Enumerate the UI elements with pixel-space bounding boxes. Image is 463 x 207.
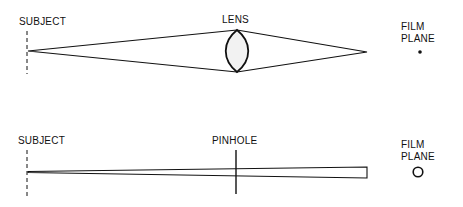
optics-diagram-canvas [0,0,463,207]
film-point-icon [418,50,422,54]
film-blur-circle-icon [413,167,423,177]
lens-outgoing-rays [237,30,367,72]
lens-incoming-rays [28,30,237,72]
pinhole-ray-cone [28,167,367,178]
lens-icon [226,30,249,72]
